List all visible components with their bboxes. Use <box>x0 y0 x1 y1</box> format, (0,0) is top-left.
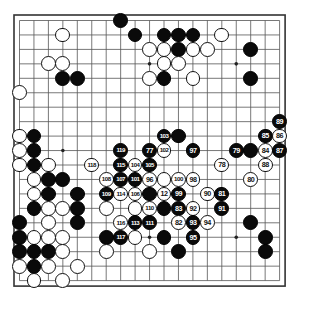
numbered-stone-black[interactable]: 97 <box>186 143 201 158</box>
numbered-stone-white[interactable]: 82 <box>171 215 186 230</box>
numbered-stone-black[interactable]: 109 <box>99 187 114 202</box>
numbered-stone-black[interactable]: 103 <box>157 129 172 144</box>
numbered-stone-black[interactable]: 95 <box>186 230 201 245</box>
stone-black[interactable] <box>157 71 172 86</box>
stone-white[interactable] <box>55 230 70 245</box>
numbered-stone-black[interactable]: 113 <box>128 215 143 230</box>
stone-white[interactable] <box>27 273 42 288</box>
stone-black[interactable] <box>157 201 172 216</box>
numbered-stone-black[interactable]: 83 <box>171 201 186 216</box>
stone-black[interactable] <box>243 143 258 158</box>
stone-black[interactable] <box>142 187 157 202</box>
numbered-stone-black[interactable]: 77 <box>142 143 157 158</box>
stone-white[interactable] <box>186 71 201 86</box>
stone-white[interactable] <box>142 71 157 86</box>
numbered-stone-black[interactable]: 117 <box>113 230 128 245</box>
numbered-stone-white[interactable]: 114 <box>113 187 128 202</box>
stone-white[interactable] <box>41 215 56 230</box>
numbered-stone-black[interactable]: 105 <box>142 158 157 173</box>
numbered-stone-white[interactable]: 110 <box>142 201 157 216</box>
stone-black[interactable] <box>12 244 27 259</box>
stone-black[interactable] <box>171 28 186 43</box>
numbered-stone-black[interactable]: 119 <box>113 143 128 158</box>
numbered-stone-black[interactable]: 115 <box>113 158 128 173</box>
numbered-stone-white[interactable]: 86 <box>272 129 287 144</box>
numbered-stone-black[interactable]: 87 <box>272 143 287 158</box>
stone-white[interactable] <box>41 158 56 173</box>
numbered-stone-white[interactable]: 80 <box>243 172 258 187</box>
numbered-stone-black[interactable]: 101 <box>128 172 143 187</box>
stone-black[interactable] <box>41 244 56 259</box>
stone-black[interactable] <box>171 129 186 144</box>
numbered-stone-white[interactable]: 96 <box>142 172 157 187</box>
stone-white[interactable] <box>55 201 70 216</box>
stone-white[interactable] <box>12 143 27 158</box>
go-board[interactable]: 8910385861197710297798487118115104105788… <box>0 0 317 331</box>
stone-black[interactable] <box>41 172 56 187</box>
stone-black[interactable] <box>99 230 114 245</box>
numbered-stone-white[interactable]: 106 <box>128 187 143 202</box>
stone-white[interactable] <box>27 172 42 187</box>
numbered-stone-white[interactable]: 92 <box>186 201 201 216</box>
stone-white[interactable] <box>142 42 157 57</box>
stone-black[interactable] <box>27 259 42 274</box>
stone-black[interactable] <box>258 230 273 245</box>
stone-black[interactable] <box>55 172 70 187</box>
stone-black[interactable] <box>243 42 258 57</box>
stone-black[interactable] <box>171 244 186 259</box>
stone-white[interactable] <box>41 201 56 216</box>
numbered-stone-black[interactable]: 91 <box>214 201 229 216</box>
stone-white[interactable] <box>12 259 27 274</box>
numbered-stone-black[interactable]: 81 <box>214 187 229 202</box>
stone-white[interactable] <box>186 42 201 57</box>
numbered-stone-white[interactable]: 88 <box>258 158 273 173</box>
stone-white[interactable] <box>128 201 143 216</box>
numbered-stone-white[interactable]: 98 <box>186 172 201 187</box>
numbered-stone-white[interactable]: 12 <box>157 187 172 202</box>
stone-white[interactable] <box>99 244 114 259</box>
numbered-stone-white[interactable]: 118 <box>84 158 99 173</box>
stone-white[interactable] <box>99 201 114 216</box>
numbered-stone-black[interactable]: 111 <box>142 215 157 230</box>
numbered-stone-white[interactable]: 108 <box>99 172 114 187</box>
numbered-stone-white[interactable]: 94 <box>200 215 215 230</box>
stone-black[interactable] <box>27 201 42 216</box>
stone-black[interactable] <box>113 13 128 28</box>
numbered-stone-white[interactable]: 116 <box>113 215 128 230</box>
stone-white[interactable] <box>157 42 172 57</box>
stone-white[interactable] <box>128 230 143 245</box>
numbered-stone-white[interactable]: 84 <box>258 143 273 158</box>
stone-white[interactable] <box>27 230 42 245</box>
numbered-stone-white[interactable]: 102 <box>157 143 172 158</box>
stone-white[interactable] <box>41 230 56 245</box>
numbered-stone-white[interactable]: 90 <box>200 187 215 202</box>
stone-black[interactable] <box>12 230 27 245</box>
stone-black[interactable] <box>55 71 70 86</box>
stone-black[interactable] <box>157 230 172 245</box>
stone-black[interactable] <box>171 42 186 57</box>
stone-white[interactable] <box>200 42 215 57</box>
stone-black[interactable] <box>41 187 56 202</box>
numbered-stone-white[interactable]: 78 <box>214 158 229 173</box>
stone-white[interactable] <box>41 259 56 274</box>
numbered-stone-black[interactable]: 93 <box>186 215 201 230</box>
stone-white[interactable] <box>157 172 172 187</box>
numbered-stone-black[interactable]: 89 <box>272 114 287 129</box>
stone-white[interactable] <box>70 259 85 274</box>
numbered-stone-black[interactable]: 99 <box>171 187 186 202</box>
stone-white[interactable] <box>12 158 27 173</box>
stone-black[interactable] <box>70 71 85 86</box>
stone-black[interactable] <box>70 201 85 216</box>
stone-white[interactable] <box>41 56 56 71</box>
numbered-stone-black[interactable]: 79 <box>229 143 244 158</box>
stone-black[interactable] <box>70 215 85 230</box>
stone-black[interactable] <box>70 187 85 202</box>
stone-white[interactable] <box>142 244 157 259</box>
stone-black[interactable] <box>258 244 273 259</box>
stone-black[interactable] <box>243 71 258 86</box>
numbered-stone-black[interactable]: 107 <box>113 172 128 187</box>
numbered-stone-white[interactable]: 100 <box>171 172 186 187</box>
stone-black[interactable] <box>12 215 27 230</box>
stone-white[interactable] <box>12 85 27 100</box>
numbered-stone-black[interactable]: 85 <box>258 129 273 144</box>
